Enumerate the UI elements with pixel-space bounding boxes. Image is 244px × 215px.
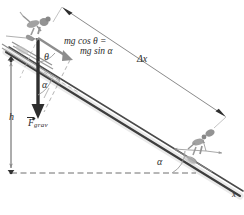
displacement-label: Δx [137, 54, 147, 65]
gravity-vector-label: Fgrav [28, 118, 48, 130]
displacement-dimension-arrow [53, 7, 226, 128]
gravity-vector-subscript: grav [34, 121, 48, 129]
angle-theta-label: θ [44, 52, 49, 63]
angle-alpha-upper-label: α [42, 80, 47, 91]
figure-canvas: mg cos θ = mg sin α Δx h Fgrav θ α α x [0, 0, 244, 215]
axis-x-label: x [232, 190, 236, 199]
force-component-line1: mg cos θ = [64, 36, 106, 46]
force-component-line2: mg sin α [64, 47, 112, 57]
physics-diagram-svg [0, 0, 244, 215]
gravity-vector-symbol: F [28, 118, 34, 129]
force-component-label: mg cos θ = mg sin α [64, 37, 112, 57]
skier-bottom [174, 128, 222, 172]
height-label: h [9, 112, 14, 123]
angle-alpha-lower-label: α [157, 157, 162, 168]
